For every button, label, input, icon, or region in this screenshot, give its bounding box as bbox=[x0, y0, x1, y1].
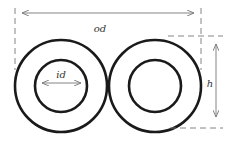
h-label: h bbox=[207, 78, 213, 89]
left-ring-outer bbox=[15, 40, 107, 132]
right-ring-inner bbox=[129, 60, 181, 112]
id-label: id bbox=[56, 69, 66, 80]
right-ring-outer bbox=[109, 40, 201, 132]
left-ring-inner bbox=[35, 60, 87, 112]
od-label: od bbox=[94, 23, 106, 34]
double-ring-dimension-diagram: od id h bbox=[0, 0, 230, 141]
